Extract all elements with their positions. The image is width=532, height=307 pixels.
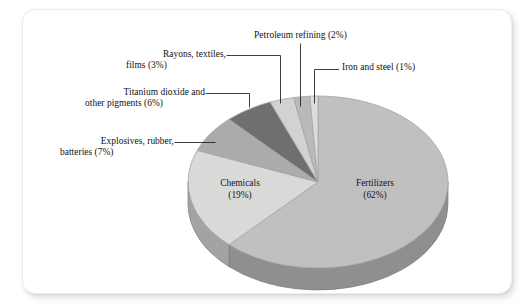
label-fertilizers: Fertilizers (62%) bbox=[330, 178, 420, 201]
screenshot-root: Petroleum refining (2%) Iron and steel (… bbox=[0, 0, 532, 307]
label-iron-and-steel-text: Iron and steel (1%) bbox=[342, 62, 415, 72]
label-explosives-rubber-batteries: Explosives, rubber, batteries (7%) bbox=[60, 136, 174, 159]
label-petroleum-refining-text: Petroleum refining (2%) bbox=[254, 30, 347, 40]
label-iron-and-steel: Iron and steel (1%) bbox=[342, 62, 415, 73]
label-titanium-line2: other pigments (6%) bbox=[85, 98, 205, 109]
leader-line-rayons bbox=[227, 56, 281, 104]
leader-line-titanium bbox=[206, 94, 250, 108]
label-chemicals-percent: (19%) bbox=[195, 190, 285, 202]
label-chemicals: Chemicals (19%) bbox=[195, 178, 285, 201]
label-rayons-textiles-films: Rayons, textiles, films (3%) bbox=[126, 49, 226, 72]
label-titanium-line1: Titanium dioxide and bbox=[85, 87, 205, 98]
label-rayons-line1: Rayons, textiles, bbox=[126, 49, 226, 60]
label-petroleum-refining: Petroleum refining (2%) bbox=[227, 30, 374, 41]
label-fertilizers-percent: (62%) bbox=[330, 190, 420, 202]
label-explosives-line2: batteries (7%) bbox=[60, 147, 174, 158]
label-explosives-line1: Explosives, rubber, bbox=[60, 136, 174, 147]
label-chemicals-name: Chemicals bbox=[195, 178, 285, 190]
label-fertilizers-name: Fertilizers bbox=[330, 178, 420, 190]
label-titanium-dioxide: Titanium dioxide and other pigments (6%) bbox=[85, 87, 205, 110]
label-rayons-line2: films (3%) bbox=[126, 60, 226, 71]
